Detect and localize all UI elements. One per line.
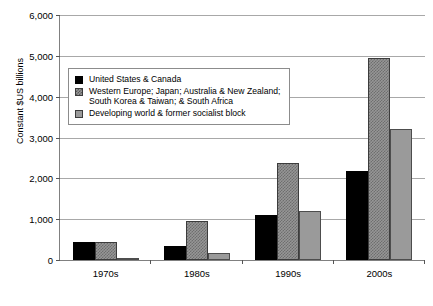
chart-legend: United States & CanadaWestern Europe; Ja… — [68, 68, 290, 125]
bar-1990s-series-0[interactable] — [255, 215, 277, 260]
bar-group: 1980s — [151, 15, 242, 260]
x-axis-tick-mark — [424, 260, 425, 264]
legend-label: Developing world & former socialist bloc… — [89, 108, 246, 119]
bar-1990s-series-2[interactable] — [299, 211, 321, 260]
bar-1970s-series-0[interactable] — [73, 242, 95, 260]
y-axis-tick-mark — [56, 260, 60, 261]
legend-label: United States & Canada — [89, 74, 181, 85]
bar-group: 1990s — [243, 15, 334, 260]
legend-label: Western Europe; Japan; Australia & New Z… — [89, 86, 280, 107]
y-axis-tick-label: 6,000 — [29, 10, 53, 21]
bar-group: 1970s — [60, 15, 151, 260]
x-axis-tick-mark — [150, 260, 151, 264]
bar-2000s-series-2[interactable] — [390, 129, 412, 260]
x-axis-tick-label: 1990s — [243, 268, 334, 279]
x-axis-tick-mark — [333, 260, 334, 264]
x-axis-tick-label: 2000s — [334, 268, 425, 279]
legend-swatch-icon — [75, 110, 83, 118]
legend-item[interactable]: United States & Canada — [75, 74, 280, 85]
legend-item[interactable]: Western Europe; Japan; Australia & New Z… — [75, 86, 280, 107]
bar-group-bars — [334, 15, 425, 260]
bar-group-bars — [243, 15, 334, 260]
bar-group-bars — [151, 15, 242, 260]
bar-2000s-series-0[interactable] — [346, 171, 368, 260]
y-axis-tick-label: 1,000 — [29, 214, 53, 225]
bar-1980s-series-2[interactable] — [208, 253, 230, 260]
bar-group-bars — [60, 15, 151, 260]
plot-area: 01,0002,0003,0004,0005,0006,0001970s1980… — [59, 15, 425, 261]
bar-1980s-series-0[interactable] — [164, 246, 186, 260]
bar-1970s-series-2[interactable] — [117, 258, 139, 260]
bar-1990s-series-1[interactable] — [277, 163, 299, 260]
bar-group: 2000s — [334, 15, 425, 260]
x-axis-tick-mark — [242, 260, 243, 264]
y-axis-tick-label: 4,000 — [29, 91, 53, 102]
y-axis-tick-label: 3,000 — [29, 132, 53, 143]
y-axis-tick-label: 2,000 — [29, 173, 53, 184]
legend-swatch-icon — [75, 88, 83, 96]
legend-item[interactable]: Developing world & former socialist bloc… — [75, 108, 280, 119]
bar-1980s-series-1[interactable] — [186, 221, 208, 260]
legend-swatch-icon — [75, 76, 83, 84]
bar-2000s-series-1[interactable] — [368, 58, 390, 260]
x-axis-tick-label: 1980s — [151, 268, 242, 279]
x-axis-tick-label: 1970s — [60, 268, 151, 279]
y-axis-tick-label: 0 — [48, 255, 53, 266]
y-axis-tick-label: 5,000 — [29, 50, 53, 61]
y-axis-title: Constant $US billions — [15, 21, 25, 181]
bar-1970s-series-1[interactable] — [95, 242, 117, 260]
bar-chart: Constant $US billions 01,0002,0003,0004,… — [0, 0, 433, 306]
